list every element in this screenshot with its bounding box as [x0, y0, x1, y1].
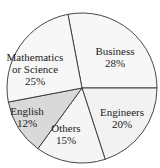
- slice-label: Business: [95, 45, 134, 57]
- slice-label: 28%: [105, 57, 125, 69]
- slice-label: or Science: [12, 63, 58, 75]
- slice-label: Engineers: [100, 106, 144, 118]
- slice-label: 12%: [17, 117, 37, 129]
- slice-label: 15%: [56, 134, 76, 146]
- slice-label: English: [10, 105, 44, 117]
- slice-label: Others: [51, 122, 80, 134]
- slice-label: Mathematics: [7, 51, 64, 63]
- pie-chart: Business28%Engineers20%Others15%English1…: [0, 0, 160, 168]
- slice-label: 25%: [25, 75, 45, 87]
- slice-label: 20%: [112, 118, 132, 130]
- pie-slices: [7, 13, 157, 163]
